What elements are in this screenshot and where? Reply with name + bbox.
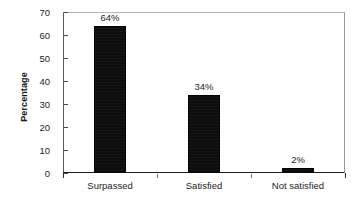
bar <box>94 26 126 173</box>
x-axis-end-tick-mark <box>345 173 346 178</box>
y-axis-tick-label: 10 <box>10 145 50 156</box>
y-axis-tick-label: 60 <box>10 30 50 41</box>
bar-value-label: 64% <box>100 12 119 23</box>
bar-chart: Percentage 01020304050607064%Surpassed34… <box>0 0 361 206</box>
y-axis-tick-label: 50 <box>10 53 50 64</box>
y-axis-tick-label: 20 <box>10 122 50 133</box>
y-axis-tick-mark <box>64 12 68 13</box>
y-axis-tick-label: 0 <box>10 168 50 179</box>
bar-value-label: 2% <box>291 154 305 165</box>
y-axis-tick-label: 30 <box>10 99 50 110</box>
y-axis-tick-mark <box>64 173 68 174</box>
y-axis-tick-mark <box>64 58 68 59</box>
y-axis-tick-mark <box>64 81 68 82</box>
x-axis-category-label: Satisfied <box>186 180 222 191</box>
x-axis-end-tick-mark <box>63 173 64 178</box>
y-axis-tick-mark <box>64 35 68 36</box>
x-axis-tick-mark <box>251 174 252 178</box>
y-axis-tick-mark <box>64 150 68 151</box>
y-axis-tick-mark <box>64 127 68 128</box>
x-axis-category-label: Not satisfied <box>272 180 324 191</box>
x-axis-tick-mark <box>157 174 158 178</box>
y-axis-tick-mark <box>64 104 68 105</box>
bar <box>188 95 220 173</box>
y-axis-tick-label: 70 <box>10 7 50 18</box>
y-axis-tick-label: 40 <box>10 76 50 87</box>
x-axis-category-label: Surpassed <box>87 180 132 191</box>
bar-value-label: 34% <box>194 81 213 92</box>
bar <box>282 168 314 173</box>
